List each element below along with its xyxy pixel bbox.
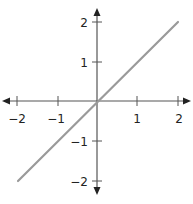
x-tick-label: 2 bbox=[175, 112, 183, 126]
y-tick-label: 1 bbox=[80, 56, 88, 70]
x-tick-label: −1 bbox=[47, 112, 65, 126]
y-axis-up-arrow-icon bbox=[94, 8, 101, 16]
y-axis-down-arrow-icon bbox=[94, 187, 101, 195]
x-tick-label: 1 bbox=[133, 112, 141, 126]
y-tick-label: −1 bbox=[70, 135, 88, 149]
y-tick-label: −2 bbox=[70, 175, 88, 189]
x-axis-right-arrow-icon bbox=[183, 98, 191, 105]
x-axis-left-arrow-icon bbox=[2, 98, 10, 105]
coordinate-plane: −2 −1 1 2 2 1 −1 −2 bbox=[0, 0, 193, 204]
x-tick-label: −2 bbox=[8, 112, 26, 126]
y-tick-label: 2 bbox=[80, 16, 88, 30]
